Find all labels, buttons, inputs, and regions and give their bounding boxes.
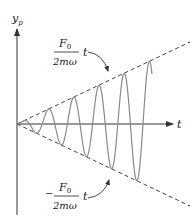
resonance-wave <box>17 61 152 180</box>
svg-text:t: t <box>83 46 88 59</box>
svg-text:2mω: 2mω <box>52 56 77 67</box>
upper-label-arrow <box>88 52 108 71</box>
lower-envelope-line <box>17 124 190 206</box>
lower-envelope-label: − F0 2mω t <box>45 181 88 211</box>
svg-text:F0: F0 <box>58 181 71 195</box>
upper-envelope-label: F0 2mω t <box>52 37 88 67</box>
svg-text:t: t <box>83 190 88 203</box>
svg-text:−: − <box>45 188 53 199</box>
svg-text:2mω: 2mω <box>52 200 77 211</box>
lower-label-arrow <box>88 180 109 198</box>
svg-text:F0: F0 <box>58 37 71 51</box>
y-axis-label: yp <box>11 12 23 27</box>
resonance-diagram: yp t F0 2mω t − F0 2mω t <box>0 0 190 221</box>
t-axis-label: t <box>177 118 182 131</box>
